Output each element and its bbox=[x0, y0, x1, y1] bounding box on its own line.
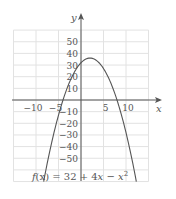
y-tick-label: −20 bbox=[59, 119, 78, 129]
caption-arg: (x) bbox=[36, 171, 49, 182]
x-axis-label: x bbox=[156, 103, 162, 114]
y-axis-label: y bbox=[70, 12, 77, 23]
y-tick-label: 50 bbox=[67, 37, 79, 47]
y-tick-label: 40 bbox=[67, 49, 79, 59]
x-tick-label: 10 bbox=[122, 103, 134, 113]
caption-exponent: 2 bbox=[124, 170, 128, 178]
caption-rest: = 32 + 4 bbox=[49, 171, 98, 182]
axes: x y bbox=[12, 12, 162, 181]
y-tick-label: −10 bbox=[59, 107, 78, 117]
x-tick-label: 5 bbox=[103, 103, 109, 113]
y-tick-label: −40 bbox=[59, 142, 78, 152]
y-tick-label: −30 bbox=[59, 130, 78, 140]
caption-minus: − bbox=[103, 171, 118, 182]
y-tick-label: −50 bbox=[59, 154, 78, 164]
x-tick-label: −10 bbox=[24, 103, 43, 113]
y-tick-label: 20 bbox=[67, 72, 79, 82]
function-caption: f(x) = 32 + 4x − x2 bbox=[0, 170, 160, 182]
